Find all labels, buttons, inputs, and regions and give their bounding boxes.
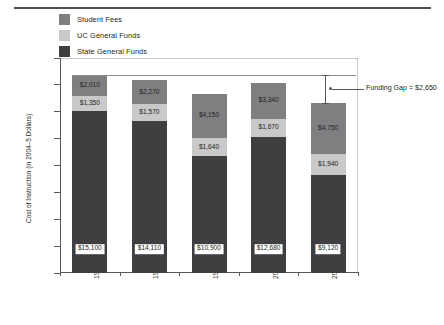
bar-value-label: $9,120: [316, 244, 341, 254]
legend-swatch-state-general-funds: [59, 46, 70, 57]
legend-label-state-general-funds: State General Funds: [77, 47, 147, 56]
stacked-bar: $4,150$1,640$10,900: [192, 94, 227, 273]
y-axis-line: [60, 58, 61, 273]
y-axis-tick-mark: [54, 246, 60, 247]
bar-value-label: $12,680: [254, 244, 283, 254]
funding-gap-cap-bottom: [322, 103, 329, 104]
bar-value-label: $4,150: [196, 111, 221, 121]
stacked-bar: $3,340$1,670$12,680: [251, 83, 286, 273]
y-axis-tick-mark: [54, 219, 60, 220]
x-axis-tick-mark: [298, 272, 299, 276]
y-axis-tick-mark: [54, 192, 60, 193]
bar-value-label: $10,900: [195, 244, 224, 254]
y-axis-tick-mark: [54, 58, 60, 59]
bar-value-label: $2,010: [77, 81, 102, 91]
stacked-bar: $4,750$1,940$9,120: [311, 103, 346, 273]
bar-value-label: $1,570: [137, 108, 162, 118]
legend-item-student-fees: Student Fees: [59, 13, 147, 26]
legend-swatch-student-fees: [59, 14, 70, 25]
legend-item-state-general-funds: State General Funds: [59, 45, 147, 58]
bar-segment: [311, 175, 346, 273]
chart-legend: Student Fees UC General Funds State Gene…: [59, 13, 147, 61]
bar-value-label: $2,270: [137, 87, 162, 97]
legend-label-student-fees: Student Fees: [77, 15, 122, 24]
bar-value-label: $1,350: [77, 99, 102, 109]
bar-value-label: $14,110: [135, 244, 163, 254]
legend-swatch-uc-general-funds: [59, 30, 70, 41]
x-axis-tick-mark: [120, 272, 121, 276]
x-axis-tick-mark: [179, 272, 180, 276]
legend-item-uc-general-funds: UC General Funds: [59, 29, 147, 42]
x-axis-tick-mark: [239, 272, 240, 276]
bar-value-label: $4,750: [316, 124, 341, 134]
legend-label-uc-general-funds: UC General Funds: [77, 31, 140, 40]
funding-gap-cap-top: [322, 75, 329, 76]
x-axis-tick-mark: [60, 272, 61, 276]
funding-gap-bar: [325, 75, 326, 103]
funding-gap-label: Funding Gap = $2,650: [366, 84, 437, 92]
funding-gap-leader: [332, 89, 364, 90]
x-axis-tick-mark: [358, 272, 359, 276]
stacked-bar: $2,270$1,570$14,110: [132, 80, 167, 273]
reference-line: [74, 75, 356, 76]
y-axis-tick-mark: [54, 84, 60, 85]
header-divider: [14, 7, 431, 9]
bar-value-label: $15,100: [75, 244, 104, 254]
bar-value-label: $1,940: [316, 160, 341, 170]
bar-value-label: $1,640: [196, 142, 221, 152]
bar-segment: [192, 156, 227, 273]
y-axis-tick-mark: [54, 111, 60, 112]
bar-value-label: $3,340: [256, 96, 281, 106]
y-axis-tick-mark: [54, 138, 60, 139]
y-axis-title: Cost of Instruction (in 2004–5 Dollars): [25, 79, 32, 259]
bar-value-label: $1,670: [256, 123, 281, 133]
stacked-bar: $2,010$1,350$15,100: [72, 75, 107, 273]
y-axis-tick-mark: [54, 165, 60, 166]
chart-figure: Student Fees UC General Funds State Gene…: [0, 0, 444, 325]
